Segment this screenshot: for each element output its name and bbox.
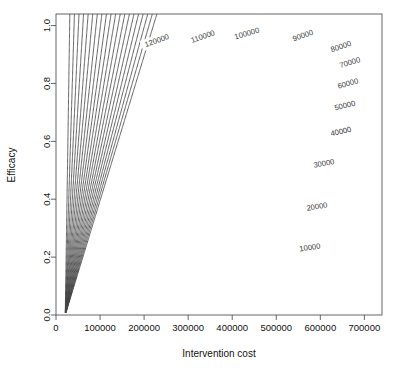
contour-line (66, 14, 134, 313)
contour-line (66, 14, 148, 313)
contour-line (66, 14, 157, 313)
x-axis-ticks-group: 0100000200000300000400000500000600000700… (53, 315, 380, 333)
y-tick-label: 0.0 (41, 308, 52, 321)
x-tick-label: 100000 (84, 322, 116, 333)
y-tick-label: 0.2 (41, 251, 52, 264)
contour-lines-group (65, 14, 157, 313)
contour-label: 120000 (143, 32, 170, 49)
y-axis-ticks-group: 0.00.20.40.60.81.0 (41, 19, 56, 322)
contour-label: 30000 (313, 157, 335, 170)
contour-line (66, 14, 130, 313)
contour-plot-figure: 0100000200000300000400000500000600000700… (0, 0, 398, 374)
x-tick-label: 0 (53, 322, 58, 333)
y-tick-label: 0.8 (41, 77, 52, 90)
contour-line (66, 14, 107, 313)
x-tick-label: 200000 (128, 322, 160, 333)
x-tick-label: 600000 (304, 322, 336, 333)
contour-line (66, 14, 102, 313)
x-tick-label: 400000 (216, 322, 248, 333)
y-tick-label: 1.0 (41, 19, 52, 32)
y-tick-label: 0.6 (41, 135, 52, 148)
x-tick-label: 500000 (260, 322, 292, 333)
y-tick-label: 0.4 (41, 193, 52, 206)
x-axis-title: Intervention cost (182, 348, 256, 359)
contour-labels-group: 1000020000300004000050000600007000080000… (140, 24, 365, 255)
x-tick-label: 700000 (349, 322, 381, 333)
x-tick-label: 300000 (172, 322, 204, 333)
y-axis-title: Efficacy (6, 148, 17, 183)
plot-canvas: 0100000200000300000400000500000600000700… (0, 0, 398, 374)
